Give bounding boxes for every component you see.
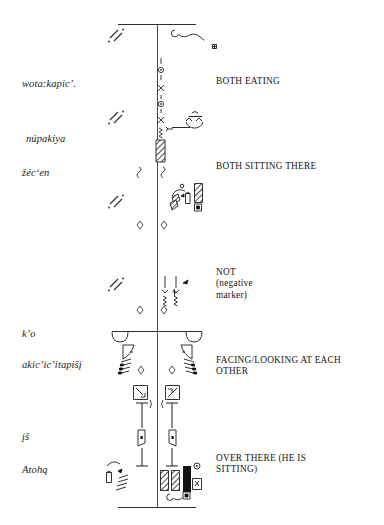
notation-page: wota:kapicʼ. núpakiya žécʻen kʼo akicʼic… <box>0 0 384 525</box>
breath-mark-icon <box>108 111 124 125</box>
transliteration-line-7: Atohą <box>22 464 48 475</box>
transliteration-line-3: žécʻen <box>22 167 49 178</box>
breath-mark-icon <box>108 29 124 43</box>
face-symbol-icon <box>166 112 203 132</box>
sign-cluster-upper <box>170 184 203 212</box>
diamond-marker-icon <box>137 221 175 374</box>
staff-lines <box>112 24 202 508</box>
negative-marker-cluster <box>162 276 188 306</box>
center-column-motifs <box>158 58 164 123</box>
sign-cluster-bottom <box>107 462 202 500</box>
gloss-facing-looking-each-other: FACING/LOOKING AT EACH OTHER <box>216 355 341 378</box>
hook-pair-icon <box>137 167 165 178</box>
paren-pair-icon <box>150 400 163 408</box>
transliteration-line-2: núpakiya <box>26 133 65 144</box>
transliteration-line-4: kʼo <box>22 328 36 339</box>
gloss-both-eating: BOTH EATING <box>216 76 280 87</box>
gloss-over-there-he-is-sitting: OVER THERE (HE IS SITTING) <box>216 453 306 476</box>
transliteration-line-5: akicʼicʼitapišį <box>22 359 82 370</box>
transliteration-line-6: įš <box>22 431 29 442</box>
hatched-block <box>156 140 165 162</box>
hook-tail-symbol-icon <box>171 30 216 49</box>
vibration-mark-icon <box>159 128 162 138</box>
breath-mark-icon <box>108 195 124 209</box>
transliteration-line-1: wota:kapicʼ. <box>22 78 76 89</box>
boxed-direction-symbols <box>134 386 180 400</box>
gloss-both-sitting-there: BOTH SITTING THERE <box>216 161 316 172</box>
gloss-not-negative-marker: NOT (negative marker) <box>216 267 253 301</box>
breath-mark-icon <box>108 278 124 292</box>
